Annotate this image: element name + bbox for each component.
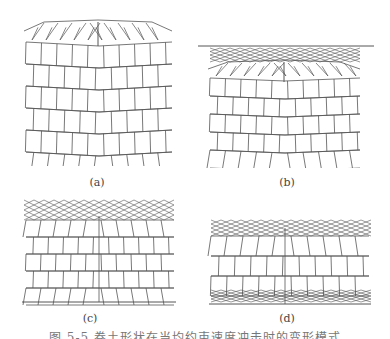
lattice-drawing-c xyxy=(18,196,178,306)
panel-label-b: (b) xyxy=(279,176,295,189)
lattice-drawing-d xyxy=(203,218,375,306)
panel-d-figure xyxy=(203,218,375,306)
panel-label-c: (c) xyxy=(83,312,98,325)
panel-c-figure xyxy=(18,196,178,306)
panel-b-figure xyxy=(198,44,374,168)
lattice-drawing-a xyxy=(18,14,178,166)
figure-caption: 图 5-5 卷土形状在当均约束速度冲击时的变形模式 xyxy=(0,330,390,339)
panel-label-a: (a) xyxy=(89,176,104,189)
panel-a-figure xyxy=(18,14,178,166)
lattice-drawing-b xyxy=(198,44,374,168)
panel-label-d: (d) xyxy=(279,312,295,325)
